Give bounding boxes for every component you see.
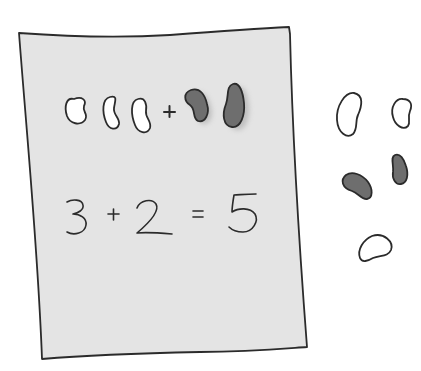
- white-bean-icon: [337, 93, 361, 136]
- white-bean-icon: [66, 98, 87, 124]
- worksheet-paper: [19, 27, 307, 359]
- dark-bean-icon: [392, 155, 407, 184]
- loose-beans: [337, 93, 411, 261]
- white-bean-icon: [392, 99, 411, 128]
- bean-addition-illustration: [0, 0, 421, 371]
- dark-bean-icon: [343, 173, 372, 199]
- white-bean-icon: [359, 235, 391, 261]
